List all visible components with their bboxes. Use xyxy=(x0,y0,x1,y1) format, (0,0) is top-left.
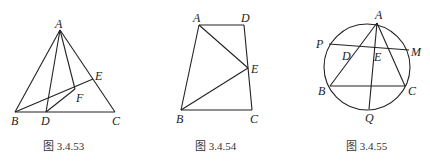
figure-caption: 图 3.4.55 xyxy=(346,140,388,152)
point-label-Q: Q xyxy=(365,111,374,125)
point-label-B: B xyxy=(318,84,326,98)
point-label-D: D xyxy=(240,11,250,25)
point-label-D: D xyxy=(341,49,351,63)
segment-AQ xyxy=(369,23,377,109)
segment-AE xyxy=(199,25,248,68)
point-label-C: C xyxy=(112,114,121,128)
point-label-B: B xyxy=(176,112,184,126)
point-label-E: E xyxy=(250,62,259,76)
segment-BA xyxy=(181,25,199,110)
figure-caption: 图 3.4.54 xyxy=(195,140,237,152)
segment-AC xyxy=(60,30,115,112)
point-label-D: D xyxy=(40,114,50,128)
point-label-A: A xyxy=(192,11,201,25)
segment-BE xyxy=(181,68,248,110)
point-label-B: B xyxy=(11,114,19,128)
segment-AB xyxy=(330,23,377,86)
geometry-figures: A B D C E F 图 3.4.53 A D E B C 图 3.4.54 … xyxy=(0,0,430,163)
figure-3-4-53: A B D C E F 图 3.4.53 xyxy=(11,17,121,152)
segment-AF xyxy=(60,30,75,89)
point-label-C: C xyxy=(408,84,417,98)
point-label-E: E xyxy=(373,50,382,64)
segment-PM xyxy=(329,44,409,50)
point-label-E: E xyxy=(94,69,103,83)
figure-caption: 图 3.4.53 xyxy=(43,140,85,152)
point-label-C: C xyxy=(250,112,259,126)
point-label-A: A xyxy=(54,17,63,31)
point-label-M: M xyxy=(410,45,422,59)
point-label-P: P xyxy=(315,37,324,51)
point-label-F: F xyxy=(75,91,84,105)
point-label-A: A xyxy=(374,8,383,22)
figure-3-4-54: A D E B C 图 3.4.54 xyxy=(176,11,259,152)
figure-3-4-55: A P M D E B C Q 图 3.4.55 xyxy=(315,8,422,152)
